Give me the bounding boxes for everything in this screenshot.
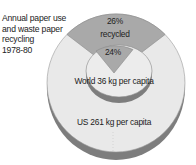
- us-label: US 261 kg per capita: [77, 117, 151, 127]
- chart-title: Annual paper use and waste paper recycli…: [2, 13, 66, 55]
- title-line-2: and waste paper: [2, 24, 66, 35]
- world-label: World 36 kg per capita: [74, 76, 153, 86]
- world-recycled-percent: 24%: [105, 47, 121, 57]
- title-line-3: recycling: [2, 34, 66, 45]
- title-line-1: Annual paper use: [2, 13, 66, 24]
- title-line-4: 1978-80: [2, 45, 66, 56]
- us-recycled-label: recycled: [100, 29, 130, 39]
- us-recycled-percent: 26%: [107, 16, 123, 26]
